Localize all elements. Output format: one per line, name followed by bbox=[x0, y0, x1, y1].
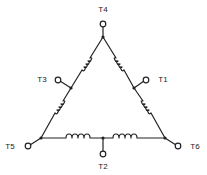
coil-bottom-right bbox=[103, 134, 165, 138]
label-t6: T6 bbox=[190, 143, 199, 151]
terminal-t1 bbox=[143, 77, 149, 83]
junction-bottom-left bbox=[39, 136, 42, 139]
label-t5: T5 bbox=[5, 143, 14, 151]
junction-bottom-right bbox=[163, 136, 166, 139]
coil-left-upper bbox=[71, 37, 103, 88]
coil-bottom-left bbox=[41, 134, 103, 138]
terminal-t3 bbox=[55, 77, 61, 83]
junction-left-mid bbox=[69, 86, 72, 89]
lead-t6 bbox=[165, 138, 176, 145]
coil-left-lower bbox=[41, 88, 71, 138]
junction-top bbox=[101, 35, 104, 38]
label-t3: T3 bbox=[37, 76, 46, 84]
terminal-t6 bbox=[175, 143, 181, 149]
delta-winding-diagram: T4 T3 T1 T5 T6 T2 bbox=[0, 0, 207, 175]
coil-right-lower bbox=[134, 88, 165, 138]
label-t1: T1 bbox=[158, 76, 167, 84]
terminal-t5 bbox=[25, 143, 31, 149]
junction-bottom-mid bbox=[101, 136, 104, 139]
lead-t3 bbox=[60, 81, 71, 88]
lead-t1 bbox=[134, 81, 144, 88]
terminal-t2 bbox=[100, 151, 106, 157]
label-t2: T2 bbox=[98, 163, 107, 171]
coil-right-upper bbox=[103, 37, 134, 88]
terminal-t4 bbox=[100, 21, 106, 27]
junction-right-mid bbox=[132, 86, 135, 89]
diagram-canvas bbox=[0, 0, 207, 175]
lead-t5 bbox=[30, 138, 41, 145]
label-t4: T4 bbox=[98, 6, 107, 14]
